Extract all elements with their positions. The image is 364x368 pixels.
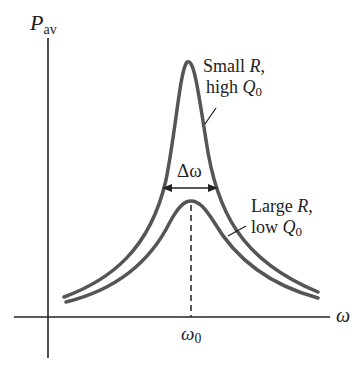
resonance-diagram <box>0 0 364 368</box>
omega0-tick-label: ω0 <box>181 323 201 347</box>
low-q-label: Large R, low Q0 <box>251 196 313 242</box>
high-q-leader-line <box>205 108 216 124</box>
high-q-label: Small R, high Q0 <box>203 56 265 102</box>
y-axis-label: Pav <box>30 10 57 38</box>
low-q-leader-line <box>228 226 246 236</box>
x-axis-label: ω <box>336 304 350 327</box>
bandwidth-label: Δω <box>177 160 202 182</box>
